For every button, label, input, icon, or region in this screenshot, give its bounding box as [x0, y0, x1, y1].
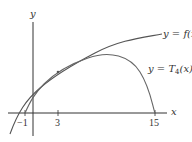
t4-curve [25, 54, 155, 113]
center-point-marker [57, 71, 60, 74]
t4-label-prefix: y = T [148, 63, 175, 74]
tick-label-3: 3 [55, 118, 60, 128]
tick-label-15: 15 [149, 118, 159, 128]
x-axis-label: x [171, 107, 177, 117]
f-curve-label: y = f(x) [163, 29, 192, 39]
y-axis-label: y [30, 9, 36, 19]
t4-curve-label: y = T4(x) [148, 64, 192, 76]
t4-label-suffix: (x) [180, 63, 192, 74]
tick-label-neg1: −1 [17, 118, 28, 128]
